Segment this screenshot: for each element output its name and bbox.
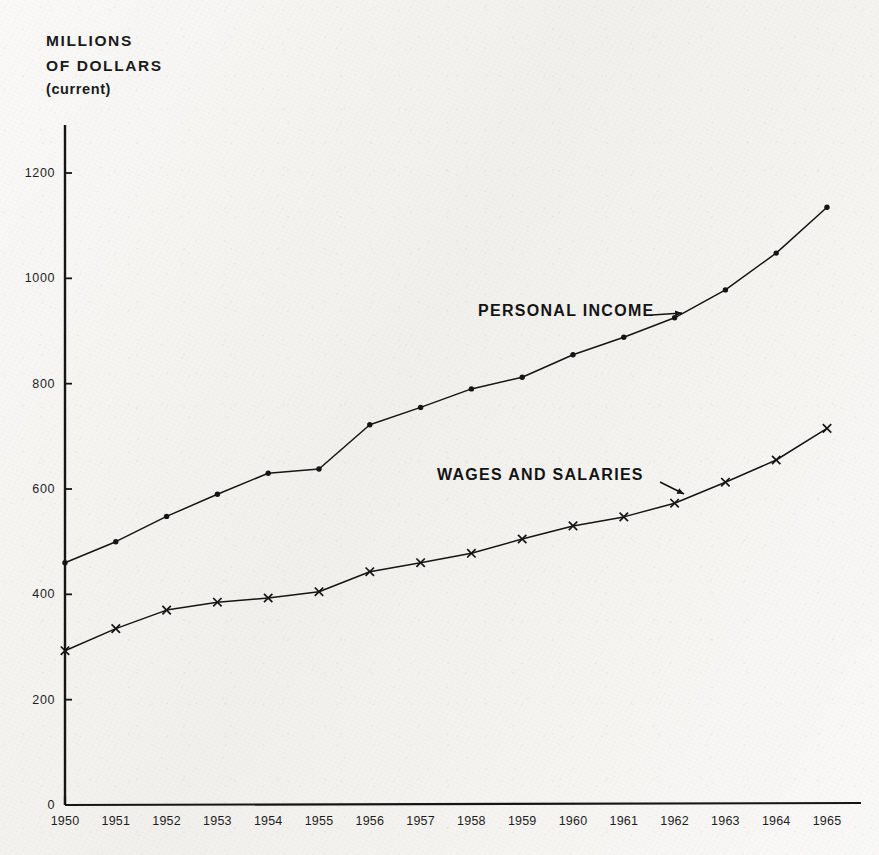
x-axis-tick-1953: 1953 [192, 814, 242, 828]
data-point [418, 405, 423, 410]
x-axis-tick-1957: 1957 [396, 814, 446, 828]
data-series [61, 205, 831, 655]
data-point [723, 287, 728, 292]
x-axis-tick-1952: 1952 [142, 814, 192, 828]
y-axis-tick-600: 600 [0, 482, 55, 496]
data-point [621, 335, 626, 340]
data-point [266, 471, 271, 476]
x-axis-tick-1960: 1960 [548, 814, 598, 828]
data-point [469, 386, 474, 391]
data-point [772, 456, 780, 464]
data-point [215, 492, 220, 497]
y-axis-tick-800: 800 [0, 377, 55, 391]
x-axis-tick-1965: 1965 [802, 814, 852, 828]
chart-page: MILLIONS OF DOLLARS (current) 0200400600… [0, 0, 879, 855]
data-point [824, 205, 829, 210]
y-axis-tick-200: 200 [0, 693, 55, 707]
axis-title-line-3: (current) [46, 78, 163, 100]
data-point [670, 499, 678, 507]
x-axis-tick-1964: 1964 [751, 814, 801, 828]
data-point [112, 624, 120, 632]
x-axis-tick-1951: 1951 [91, 814, 141, 828]
data-point [520, 375, 525, 380]
chart-axis-title: MILLIONS OF DOLLARS (current) [46, 28, 163, 100]
data-point [774, 250, 779, 255]
annotation-arrows [652, 310, 684, 494]
x-axis-tick-1963: 1963 [700, 814, 750, 828]
data-point [62, 560, 67, 565]
x-axis-tick-1962: 1962 [650, 814, 700, 828]
axes [64, 125, 861, 805]
x-axis-tick-1955: 1955 [294, 814, 344, 828]
data-point [316, 466, 321, 471]
x-axis-tick-1954: 1954 [243, 814, 293, 828]
chart-plot-area [0, 0, 879, 855]
axis-title-line-2: OF DOLLARS [46, 53, 163, 78]
x-axis-tick-1961: 1961 [599, 814, 649, 828]
axis-title-line-1: MILLIONS [46, 28, 163, 53]
arrow-wages-and-salaries [660, 482, 684, 494]
data-point [721, 478, 729, 486]
series-label-personal-income: PERSONAL INCOME [478, 302, 655, 320]
series-wages-and-salaries [61, 424, 831, 655]
data-point [113, 539, 118, 544]
x-axis-tick-1958: 1958 [446, 814, 496, 828]
x-axis-tick-1956: 1956 [345, 814, 395, 828]
y-axis-tick-400: 400 [0, 587, 55, 601]
data-point [367, 422, 372, 427]
y-axis-tick-1000: 1000 [0, 271, 55, 285]
data-point [570, 352, 575, 357]
y-axis-tick-1200: 1200 [0, 166, 55, 180]
series-personal-income [62, 205, 829, 566]
data-point [164, 514, 169, 519]
y-axis-tick-0: 0 [0, 798, 55, 812]
series-label-wages-and-salaries: WAGES AND SALARIES [437, 466, 644, 484]
data-point [823, 424, 831, 432]
x-axis-tick-1959: 1959 [497, 814, 547, 828]
x-axis-tick-1950: 1950 [40, 814, 90, 828]
